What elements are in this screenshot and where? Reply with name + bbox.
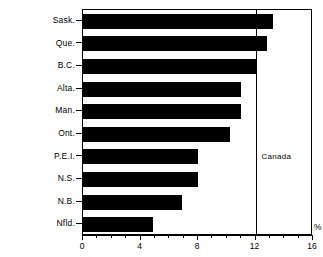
axis-tick-label: 0 <box>80 242 85 251</box>
axis-tick-major <box>197 235 198 240</box>
canada-reference-label: Canada <box>262 152 292 161</box>
axis-tick-major <box>82 235 83 240</box>
bar <box>83 104 241 119</box>
bar-chart: Sask.Que.B.C.Alta.Man.Ont.P.E.I.N.S.N.B.… <box>0 0 323 257</box>
bar <box>83 36 267 51</box>
category-label-row: Alta. <box>0 77 82 100</box>
axis-tick-minor <box>283 235 284 238</box>
bar <box>83 217 153 232</box>
bar <box>83 82 241 97</box>
canada-reference-line <box>256 10 257 234</box>
category-axis: Sask.Que.B.C.Alta.Man.Ont.P.E.I.N.S.N.B.… <box>0 9 82 235</box>
bar <box>83 127 230 142</box>
axis-unit-label: % <box>314 223 322 232</box>
axis-tick-minor <box>183 235 184 238</box>
bar <box>83 195 182 210</box>
category-label-row: Nfld. <box>0 212 82 235</box>
axis-tick-major <box>140 235 141 240</box>
axis-tick-minor <box>269 235 270 238</box>
bar-row <box>83 104 313 119</box>
bar-row <box>83 14 313 29</box>
category-label-row: Man. <box>0 99 82 122</box>
bar-row <box>83 127 313 142</box>
category-label-row: N.B. <box>0 190 82 213</box>
category-label-row: Ont. <box>0 122 82 145</box>
bar <box>83 172 198 187</box>
axis-tick-major <box>255 235 256 240</box>
axis-tick-label: 16 <box>307 242 316 251</box>
axis-tick-label: 8 <box>195 242 200 251</box>
category-label-row: P.E.I. <box>0 145 82 168</box>
bar-row <box>83 59 313 74</box>
axis-tick-minor <box>111 235 112 238</box>
axis-tick-minor <box>226 235 227 238</box>
axis-tick-label: 4 <box>137 242 142 251</box>
axis-tick-label: 12 <box>250 242 259 251</box>
bar-row <box>83 217 313 232</box>
axis-tick-minor <box>96 235 97 238</box>
axis-tick-minor <box>154 235 155 238</box>
category-label-row: Sask. <box>0 9 82 32</box>
bar <box>83 59 256 74</box>
category-label-row: N.S. <box>0 167 82 190</box>
bar <box>83 149 198 164</box>
axis-tick-minor <box>240 235 241 238</box>
bar-row <box>83 36 313 51</box>
axis-tick-major <box>312 235 313 240</box>
bar-row <box>83 82 313 97</box>
category-label-row: Que. <box>0 32 82 55</box>
bar <box>83 14 273 29</box>
value-axis: 0481216 <box>82 235 312 257</box>
category-label-row: B.C. <box>0 54 82 77</box>
axis-tick-minor <box>168 235 169 238</box>
bar-row <box>83 195 313 210</box>
plot-area: Canada <box>82 9 312 235</box>
bar-row <box>83 172 313 187</box>
axis-tick-minor <box>298 235 299 238</box>
axis-tick-minor <box>125 235 126 238</box>
axis-tick-minor <box>211 235 212 238</box>
